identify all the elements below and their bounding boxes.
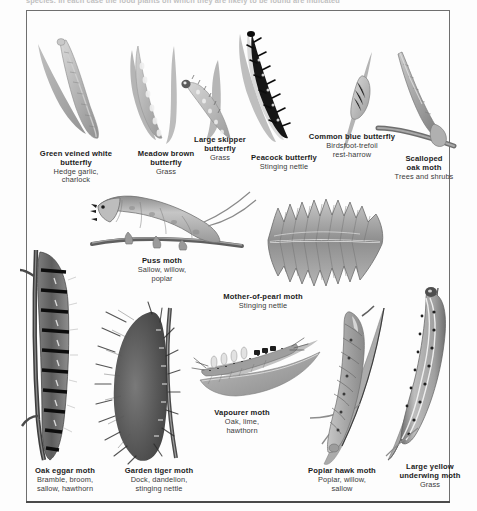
caption-scalloped-oak-moth: Scalloped oak moth Trees and shrubs: [376, 155, 472, 181]
food-plant-line1: Stinging nettle: [238, 163, 330, 171]
species-name-line2: underwing moth: [386, 472, 474, 481]
food-plant-line1: Grass: [120, 168, 212, 176]
illustration-oak-eggar-moth: [14, 250, 94, 462]
species-name-line2: oak moth: [376, 164, 472, 173]
caption-mother-of-pearl-moth: Mother-of-pearl moth Stinging nettle: [208, 293, 318, 310]
illustration-mother-of-pearl-moth: [264, 196, 386, 292]
caption-oak-eggar-moth: Oak eggar moth Bramble, broom, sallow, h…: [18, 467, 112, 493]
food-plant-line1: Grass: [386, 481, 474, 489]
cut-off-header-text: species. In each case the food plants on…: [26, 0, 446, 8]
caption-poplar-hawk-moth: Poplar hawk moth Poplar, willow, sallow: [294, 467, 390, 493]
food-plant-line2: sallow: [294, 485, 390, 493]
caption-large-yellow-underwing-moth: Large yellow underwing moth Grass: [386, 463, 474, 489]
food-plant-line2: sallow, hawthorn: [18, 485, 112, 493]
caption-green-veined-white-butterfly: Green veined white butterfly Hedge garli…: [22, 150, 130, 185]
food-plant-line2: hawthorn: [198, 427, 286, 435]
page-border-bottom: [26, 501, 450, 503]
page-border-top: [26, 10, 450, 11]
species-name-line2: butterfly: [22, 159, 130, 168]
food-plant-line2: stinging nettle: [110, 485, 208, 493]
food-plant-line1: Stinging nettle: [208, 302, 318, 310]
illustration-garden-tiger-moth: [104, 308, 200, 464]
illustration-large-yellow-underwing-moth: [386, 286, 470, 462]
caption-vapourer-moth: Vapourer moth Oak, lime, hawthorn: [198, 409, 286, 435]
illustration-green-veined-white-butterfly: [30, 38, 140, 150]
food-plant-line2: charlock: [22, 176, 130, 184]
food-plant-line2: poplar: [117, 275, 207, 283]
illustration-puss-moth: [92, 188, 260, 258]
food-plant-line1: Trees and shrubs: [376, 173, 472, 181]
book-page: species. In each case the food plants on…: [0, 0, 477, 511]
species-name-line2: butterfly: [178, 145, 262, 154]
caption-garden-tiger-moth: Garden tiger moth Dock, dandelion, sting…: [110, 467, 208, 493]
caption-puss-moth: Puss moth Sallow, willow, poplar: [117, 257, 207, 283]
